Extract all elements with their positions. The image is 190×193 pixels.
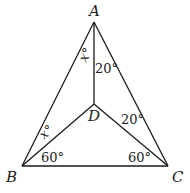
angle-label-bad: x° (75, 45, 95, 64)
angle-label-dcb: 60° (128, 150, 151, 165)
angle-label-acd: 20° (121, 112, 144, 127)
segment-ac (94, 22, 168, 166)
angle-label-dbc: 60° (41, 150, 64, 165)
segment-ab (22, 22, 94, 166)
point-label-b: B (5, 168, 17, 186)
point-label-a: A (87, 2, 100, 20)
geometry-diagram: A B C D x° 20° x° 60° 20° 60° (0, 0, 190, 193)
point-label-d: D (87, 107, 100, 125)
angle-label-dac: 20° (95, 61, 118, 76)
point-label-c: C (172, 168, 184, 186)
